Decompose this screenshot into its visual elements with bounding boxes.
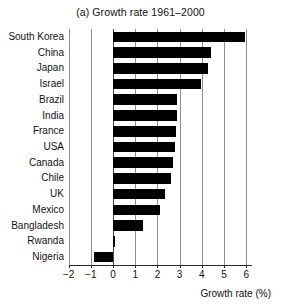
bar-row — [69, 170, 252, 186]
category-label: Israel — [0, 76, 64, 92]
bar-row — [69, 76, 252, 92]
tick-label: 2 — [146, 269, 168, 280]
tick-label: 5 — [213, 269, 235, 280]
bar-row — [69, 233, 252, 249]
growth-rate-bar-chart: (a) Growth rate 1961–2000 South KoreaChi… — [0, 0, 281, 308]
category-label: India — [0, 108, 64, 124]
bar-row — [69, 249, 252, 265]
tick-mark — [113, 265, 114, 268]
x-axis-title: Growth rate (%) — [200, 288, 271, 299]
bar-row — [69, 139, 252, 155]
bar-row — [69, 202, 252, 218]
bar-row — [69, 218, 252, 234]
plot-area — [69, 29, 252, 265]
bar-series — [69, 29, 252, 265]
bar — [113, 205, 160, 216]
category-label: USA — [0, 139, 64, 155]
bar — [94, 252, 113, 263]
bar-row — [69, 45, 252, 61]
category-label: Brazil — [0, 92, 64, 108]
bar — [113, 110, 177, 121]
tick-mark — [135, 265, 136, 268]
bar — [113, 157, 173, 168]
bar — [113, 126, 176, 137]
category-label: Rwanda — [0, 233, 64, 249]
bar — [113, 94, 177, 105]
bar — [113, 79, 201, 90]
tick-mark — [224, 265, 225, 268]
bar — [113, 63, 208, 74]
tick-mark — [157, 265, 158, 268]
bar — [113, 173, 171, 184]
tick-mark — [202, 265, 203, 268]
tick-label: −1 — [80, 269, 102, 280]
bar-row — [69, 186, 252, 202]
bar-row — [69, 108, 252, 124]
tick-mark — [246, 265, 247, 268]
tick-label: 3 — [169, 269, 191, 280]
tick-mark — [180, 265, 181, 268]
category-label: Japan — [0, 60, 64, 76]
tick-label: 0 — [102, 269, 124, 280]
tick-label: −2 — [58, 269, 80, 280]
bar-row — [69, 60, 252, 76]
category-label: Mexico — [0, 202, 64, 218]
tick-label: 6 — [235, 269, 257, 280]
category-label: Bangladesh — [0, 218, 64, 234]
chart-title: (a) Growth rate 1961–2000 — [0, 6, 281, 18]
bar-row — [69, 29, 252, 45]
category-label: Chile — [0, 170, 64, 186]
category-axis-labels: South KoreaChinaJapanIsraelBrazilIndiaFr… — [0, 29, 64, 265]
bar — [113, 47, 211, 58]
bar-row — [69, 123, 252, 139]
tick-label: 4 — [191, 269, 213, 280]
bar — [113, 236, 115, 247]
bar — [113, 189, 165, 200]
category-label: UK — [0, 186, 64, 202]
category-label: South Korea — [0, 29, 64, 45]
category-label: China — [0, 45, 64, 61]
tick-mark — [91, 265, 92, 268]
bar-row — [69, 92, 252, 108]
category-label: Canada — [0, 155, 64, 171]
tick-label: 1 — [124, 269, 146, 280]
category-label: Nigeria — [0, 249, 64, 265]
bar — [113, 220, 143, 231]
category-label: France — [0, 123, 64, 139]
bar-row — [69, 155, 252, 171]
bar — [113, 32, 245, 43]
bar — [113, 142, 175, 153]
tick-mark — [69, 265, 70, 268]
